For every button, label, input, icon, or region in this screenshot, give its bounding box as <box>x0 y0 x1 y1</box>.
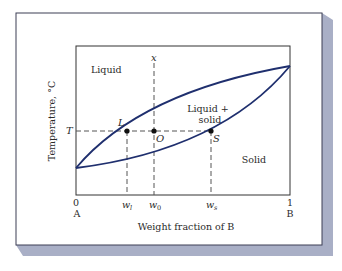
region-two-phase-label-1: Liquid + <box>187 103 229 114</box>
point-l <box>124 128 129 133</box>
point-l-label: L <box>117 117 125 128</box>
region-liquid-label: Liquid <box>91 64 122 75</box>
region-two-phase-label-2: solid <box>199 114 222 125</box>
region-solid-label: Solid <box>242 154 266 165</box>
point-s-label: S <box>213 133 220 144</box>
tick-wl-sub: l <box>130 204 132 212</box>
point-o-label: O <box>156 133 164 144</box>
x-axis-left-component: A <box>73 208 81 219</box>
tick-wl-main: w <box>122 199 130 210</box>
phase-diagram-figure: L O S x Liquid Liquid + solid Solid T Te… <box>0 0 342 271</box>
y-axis-label: Temperature, °C <box>46 81 57 161</box>
tick-w0-main: w <box>149 199 157 210</box>
x-axis-left-value: 0 <box>73 197 79 208</box>
x-line-label: x <box>151 52 157 63</box>
tick-w0-sub: 0 <box>157 204 161 212</box>
x-axis-right-component: B <box>287 208 294 219</box>
tick-ws-main: w <box>206 199 214 210</box>
phase-diagram-svg: L O S x Liquid Liquid + solid Solid T Te… <box>0 0 342 271</box>
x-axis-right-value: 1 <box>287 197 293 208</box>
x-axis-label: Weight fraction of B <box>138 221 235 232</box>
outer-frame <box>16 13 322 245</box>
